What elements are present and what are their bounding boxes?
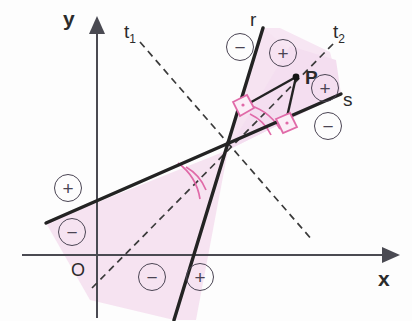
label-x-axis: x: [378, 268, 390, 289]
sign-right-minus: −: [314, 112, 342, 140]
label-t1-subscript: 1: [129, 32, 136, 46]
sign-top-plus: +: [269, 39, 297, 67]
label-line-t1: t1: [124, 22, 136, 45]
label-origin: O: [71, 261, 85, 279]
right-angle-dot-r: [241, 103, 244, 106]
geometry-figure: r s t1 t2 y x O P − + + − + − − +: [0, 0, 412, 321]
line-t2: [92, 41, 336, 288]
label-y-axis: y: [63, 8, 75, 29]
sign-bottom-minus: −: [138, 263, 166, 291]
label-t2-subscript: 2: [338, 32, 345, 46]
sign-left-plus: +: [54, 174, 82, 202]
sign-top-minus: −: [226, 33, 254, 61]
label-line-t2: t2: [333, 22, 345, 45]
bisectors: [92, 41, 336, 288]
label-line-s: s: [343, 90, 353, 109]
sign-right-plus: +: [311, 74, 339, 102]
right-angle-dot-s: [285, 121, 288, 124]
sign-bottom-plus: +: [186, 263, 214, 291]
point-P-marker: [293, 74, 300, 81]
sign-left-minus: −: [58, 218, 86, 246]
label-line-r: r: [250, 10, 256, 29]
